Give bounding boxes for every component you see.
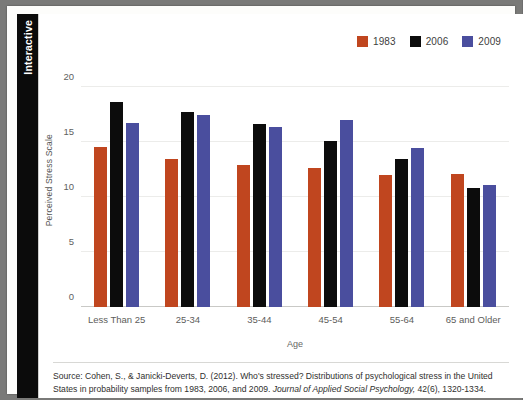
x-tick-label-4: 55-64 bbox=[390, 314, 414, 325]
y-tick-label-10: 10 bbox=[63, 181, 74, 192]
interactive-tab-label: Interactive bbox=[22, 20, 34, 75]
bar-area: Less Than 2525-3435-4445-5455-6465 and O… bbox=[81, 71, 509, 307]
x-axis-title: Age bbox=[81, 339, 509, 349]
bar-2009-3[interactable] bbox=[340, 120, 353, 307]
source-journal-name: Journal of Applied Social Psychology, bbox=[273, 384, 415, 394]
y-tick-label-20: 20 bbox=[63, 71, 74, 82]
x-tick-label-5: 65 and Older bbox=[446, 314, 501, 325]
source-citation: Source: Cohen, S., & Janicki-Deverts, D.… bbox=[53, 362, 509, 397]
chart-figure: 198320062009 Perceived Stress Scale 0510… bbox=[38, 14, 523, 398]
bar-1983-3[interactable] bbox=[308, 168, 321, 307]
bar-2009-5[interactable] bbox=[483, 185, 496, 307]
x-tick-label-1: 25-34 bbox=[176, 314, 200, 325]
bar-1983-0[interactable] bbox=[94, 147, 107, 307]
y-tick-label-5: 5 bbox=[69, 236, 74, 247]
x-tick-label-3: 45-54 bbox=[318, 314, 342, 325]
y-tick-label-0: 0 bbox=[69, 291, 74, 302]
plot-wrapper: Perceived Stress Scale 05101520 Less Tha… bbox=[39, 14, 523, 354]
plot-area: 05101520 Less Than 2525-3435-4445-5455-6… bbox=[81, 71, 509, 307]
bar-2009-0[interactable] bbox=[126, 123, 139, 307]
bar-group-1: 25-34 bbox=[152, 71, 223, 307]
interactive-side-tab[interactable]: Interactive bbox=[17, 14, 38, 398]
bar-2009-1[interactable] bbox=[197, 115, 210, 307]
bar-group-3: 45-54 bbox=[295, 71, 366, 307]
page-sheet: Interactive 198320062009 Perceived Stres… bbox=[7, 6, 515, 394]
bar-2006-4[interactable] bbox=[395, 159, 408, 307]
bar-group-2: 35-44 bbox=[224, 71, 295, 307]
bar-group-4: 55-64 bbox=[366, 71, 437, 307]
bar-2006-5[interactable] bbox=[467, 188, 480, 307]
bar-group-5: 65 and Older bbox=[438, 71, 509, 307]
bar-group-0: Less Than 25 bbox=[81, 71, 152, 307]
bar-2006-1[interactable] bbox=[181, 112, 194, 307]
x-tick-label-0: Less Than 25 bbox=[88, 314, 145, 325]
y-tick-label-15: 15 bbox=[63, 126, 74, 137]
bar-2006-3[interactable] bbox=[324, 141, 337, 307]
bar-1983-2[interactable] bbox=[237, 165, 250, 307]
bar-2009-4[interactable] bbox=[411, 148, 424, 307]
source-text-tail: 42(6), 1320-1334. bbox=[415, 384, 486, 394]
bar-2009-2[interactable] bbox=[269, 127, 282, 307]
y-axis-title: Perceived Stress Scale bbox=[44, 134, 54, 226]
bar-2006-2[interactable] bbox=[253, 124, 266, 307]
bar-1983-1[interactable] bbox=[165, 159, 178, 307]
bar-2006-0[interactable] bbox=[110, 102, 123, 307]
bar-1983-5[interactable] bbox=[451, 174, 464, 307]
x-tick-label-2: 35-44 bbox=[247, 314, 271, 325]
bar-1983-4[interactable] bbox=[379, 175, 392, 307]
